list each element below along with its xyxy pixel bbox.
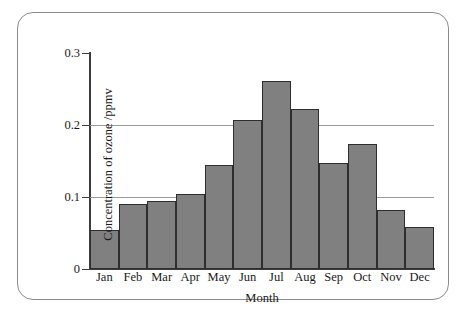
y-axis-tick-label: 0.2 — [64, 119, 80, 132]
y-axis-tick-label: 0.3 — [64, 47, 80, 60]
y-axis-tick-mark — [82, 53, 90, 54]
y-axis-tick-mark — [82, 197, 90, 198]
x-axis-tick-labels: JanFebMarAprMayJunJulAugSepOctNovDec — [90, 271, 434, 291]
y-axis-tick-label: 0.1 — [64, 191, 80, 204]
y-axis-tick-mark — [82, 125, 90, 126]
bar — [147, 201, 176, 269]
x-axis-tick-label: Aug — [291, 271, 320, 284]
x-axis-tick-label: Sep — [319, 271, 348, 284]
x-axis-tick-label: Apr — [176, 271, 205, 284]
bar — [205, 165, 234, 269]
x-axis-title: Month — [90, 291, 434, 306]
x-axis-tick-label: Oct — [348, 271, 377, 284]
x-axis-tick-label: Nov — [377, 271, 406, 284]
bar — [233, 120, 262, 269]
y-axis-tick-mark — [82, 269, 90, 270]
x-axis-tick-label: Feb — [119, 271, 148, 284]
x-axis-tick-label: Jun — [233, 271, 262, 284]
bar — [348, 144, 377, 269]
bar — [291, 109, 320, 269]
x-axis-tick-label: May — [205, 271, 234, 284]
x-axis-tick-label: Jul — [262, 271, 291, 284]
bar — [262, 81, 291, 269]
x-axis-tick-label: Dec — [405, 271, 434, 284]
x-axis-tick-label: Mar — [147, 271, 176, 284]
bar — [377, 210, 406, 269]
bar — [176, 194, 205, 269]
y-axis-title: Concentration of ozone /ppmv — [101, 65, 116, 265]
bar — [405, 227, 434, 269]
x-axis-tick-label: Jan — [90, 271, 119, 284]
figure-frame: 0.30.20.10 JanFebMarAprMayJunJulAugSepOc… — [17, 12, 449, 300]
bar-series — [90, 53, 434, 269]
bar — [119, 204, 148, 269]
y-axis-tick-label: 0 — [74, 263, 80, 276]
bar — [319, 163, 348, 269]
plot-area: JanFebMarAprMayJunJulAugSepOctNovDec Mon… — [90, 53, 434, 269]
y-axis-tick-labels: 0.30.20.10 — [32, 13, 80, 301]
